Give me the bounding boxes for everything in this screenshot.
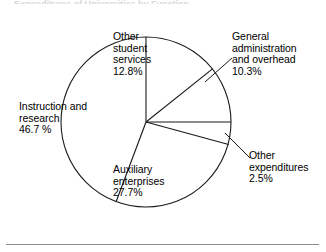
pie-chart-figure: Expenditures of Universities by Function… bbox=[0, 0, 326, 252]
page-divider-rule bbox=[6, 244, 319, 245]
leader-line-other-expenditures bbox=[225, 133, 250, 158]
pie-slice-label-auxiliary-enterprises: Auxiliary enterprises 27.7% bbox=[113, 164, 164, 199]
pie-slice-label-instruction-and-research: Instruction and research 46.7 % bbox=[19, 101, 87, 136]
pie-slice-label-other-student-services: Other student services 12.8% bbox=[113, 31, 151, 77]
pie-slice-label-other-expenditures: Other expenditures 2.5% bbox=[249, 150, 309, 185]
pie-slice-label-general-administration-and-overhead: General administration and overhead 10.3… bbox=[232, 31, 297, 77]
